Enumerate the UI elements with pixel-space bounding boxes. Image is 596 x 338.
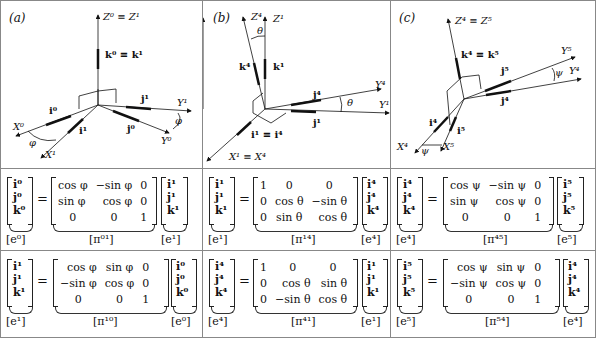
caption-e: [e⁵] xyxy=(557,233,577,246)
lhs-vector: i⁰ j⁰ k⁰ xyxy=(13,178,25,217)
vector-entry: k¹ xyxy=(367,286,379,299)
bracket xyxy=(28,259,33,307)
equation-a-inverse: i¹ j¹ k¹ = cos φsin φ0 −sin φcos φ0 001 … xyxy=(0,250,203,338)
vector-entry: i¹ xyxy=(13,260,25,273)
vector-entry: k⁴ xyxy=(215,286,227,299)
bracket xyxy=(353,259,358,307)
vector-label-k: k⁴ ≡ k⁵ xyxy=(461,49,499,60)
vector-label-i5: i⁵ xyxy=(457,125,465,136)
caption-pi: [π¹⁴] xyxy=(291,233,316,246)
angle-label-phi: φ xyxy=(29,137,36,148)
bracket xyxy=(383,177,388,225)
equation-b-inverse: i⁴ j⁴ k⁴ = 100 0cos θsin θ 0−sin θcos θ … xyxy=(202,250,391,338)
rotation-matrix: cos φ−sin φ0 sin φcos φ0 001 xyxy=(53,177,152,227)
vector-entry: k⁴ xyxy=(403,204,415,217)
axis-label-z: Z⁴ ≡ Z⁵ xyxy=(455,15,492,26)
vector-entry: i¹ xyxy=(215,178,227,191)
vector-entry: i¹ xyxy=(167,178,179,191)
rotation-figure: (a) Z⁰ ≡ Z¹ k⁰ ≡ k¹ j¹ Y¹ i⁰ X⁰ i¹ j⁰ Y⁰… xyxy=(0,0,596,338)
axis-label-x1: X¹ xyxy=(45,149,56,160)
caption-pi: [π⁴⁵] xyxy=(483,233,508,246)
equation-c-inverse: i⁵ j⁵ k⁵ = cos ψsin ψ0 −sin ψcos ψ0 001 … xyxy=(390,250,596,338)
bracket xyxy=(230,177,235,225)
underbrace xyxy=(399,225,423,232)
vector-entry: i⁴ xyxy=(367,178,379,191)
axis-label-x4: X⁴ xyxy=(397,141,408,152)
vector-entry: k⁴ xyxy=(568,286,580,299)
vector-label-k4: k⁴ xyxy=(239,61,250,72)
rotation-matrix: 100 0cos θ−sin θ 0sin θcos θ xyxy=(255,177,352,227)
bracket xyxy=(418,259,423,307)
panel-a-figure: (a) Z⁰ ≡ Z¹ k⁰ ≡ k¹ j¹ Y¹ i⁰ X⁰ i¹ j⁰ Y⁰… xyxy=(0,0,203,169)
vector-entry: i⁴ xyxy=(215,260,227,273)
underbrace xyxy=(559,225,583,232)
equation-a-forward: i⁰ j⁰ k⁰ = cos φ−sin φ0 sin φcos φ0 001 … xyxy=(0,168,203,251)
vector-label-i1: i¹ xyxy=(79,125,87,136)
caption-e: [e¹] xyxy=(6,315,26,328)
vector-label-k: k⁰ ≡ k¹ xyxy=(105,49,143,60)
angle-label-psi: ψ xyxy=(555,67,563,78)
vector-entry: i⁵ xyxy=(563,178,575,191)
vector-label-j4: j⁴ xyxy=(313,89,321,100)
rotation-matrix: cos ψsin ψ0 −sin ψcos ψ0 001 xyxy=(445,259,546,309)
bracket xyxy=(353,177,358,225)
underbrace xyxy=(255,307,357,314)
bracket xyxy=(383,259,388,307)
axis-label-y1: Y¹ xyxy=(177,97,188,108)
lhs-vector: i⁴ j⁴ k⁴ xyxy=(403,178,415,217)
vector-entry: k¹ xyxy=(215,204,227,217)
equation-b-forward: i¹ j¹ k¹ = 100 0cos θ−sin θ 0sin θcos θ … xyxy=(202,168,391,251)
axis-label-x: X¹ ≡ X⁴ xyxy=(229,151,266,162)
axis-label-x5: X⁵ xyxy=(443,141,454,152)
caption-e: [e⁰] xyxy=(6,233,26,246)
bracket xyxy=(557,177,562,225)
vector-entry: j¹ xyxy=(367,273,379,286)
bracket xyxy=(418,177,423,225)
vector-entry: j⁴ xyxy=(403,191,415,204)
rotation-matrix: 100 0cos θsin θ 0−sin θcos θ xyxy=(255,259,352,309)
bracket xyxy=(584,259,589,307)
underbrace xyxy=(445,225,553,232)
underbrace xyxy=(255,225,357,232)
angle-label-theta: θ xyxy=(257,25,263,36)
axes-diagram-b xyxy=(203,1,392,170)
bracket xyxy=(397,259,402,307)
vector-entry: j⁴ xyxy=(568,273,580,286)
rotation-matrix: cos φsin φ0 −sin φcos φ0 001 xyxy=(55,259,154,309)
caption-pi: [π⁵⁴] xyxy=(485,315,510,328)
underbrace xyxy=(565,307,589,314)
axis-label-y4: Y⁴ xyxy=(375,79,386,90)
equation-c-forward: i⁴ j⁴ k⁴ = cos ψ−sin ψ0 sin ψcos ψ0 001 … xyxy=(390,168,596,251)
vector-entry: k⁰ xyxy=(176,286,188,299)
panel-label: (a) xyxy=(9,11,26,25)
lhs-vector: i⁴ j⁴ k⁴ xyxy=(215,260,227,299)
underbrace xyxy=(211,225,235,232)
bracket xyxy=(192,259,197,307)
panel-b-figure: (b) Z⁴ Z¹ θ k⁴ k¹ Y⁴ j⁴ θ Y¹ j¹ i¹ ≡ i⁴ … xyxy=(202,0,391,169)
bracket xyxy=(209,177,214,225)
underbrace xyxy=(211,307,235,314)
lhs-vector: i¹ j¹ k¹ xyxy=(215,178,227,217)
caption-e: [e⁴] xyxy=(563,315,583,328)
underbrace xyxy=(173,307,197,314)
underbrace xyxy=(163,225,187,232)
caption-pi: [π⁰¹] xyxy=(89,233,114,246)
vector-label-j4: j⁴ xyxy=(501,95,509,106)
underbrace xyxy=(399,307,423,314)
vector-label-j5: j⁵ xyxy=(501,65,509,76)
caption-e: [e⁵] xyxy=(396,315,416,328)
caption-e: [e⁴] xyxy=(208,315,228,328)
bracket xyxy=(209,259,214,307)
vector-entry: i⁰ xyxy=(13,178,25,191)
vector-label-j1: j¹ xyxy=(313,117,321,128)
vector-entry: j⁴ xyxy=(367,191,379,204)
vector-entry: k¹ xyxy=(167,204,179,217)
underbrace xyxy=(53,225,155,232)
underbrace xyxy=(363,307,387,314)
bracket xyxy=(579,177,584,225)
panel-label: (b) xyxy=(213,11,230,25)
axis-label-z: Z⁰ ≡ Z¹ xyxy=(103,11,140,22)
rotation-matrix: cos ψ−sin ψ0 sin ψcos ψ0 001 xyxy=(445,177,546,227)
rhs-vector: i¹ j¹ k¹ xyxy=(167,178,179,217)
vector-label-k1: k¹ xyxy=(273,61,284,72)
